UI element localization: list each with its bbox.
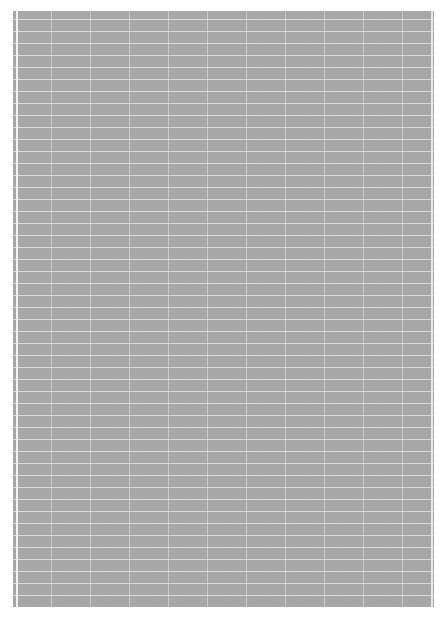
left-margin-line [16,11,18,607]
right-margin-line [431,11,433,607]
grid-paper-sheet [13,11,434,607]
